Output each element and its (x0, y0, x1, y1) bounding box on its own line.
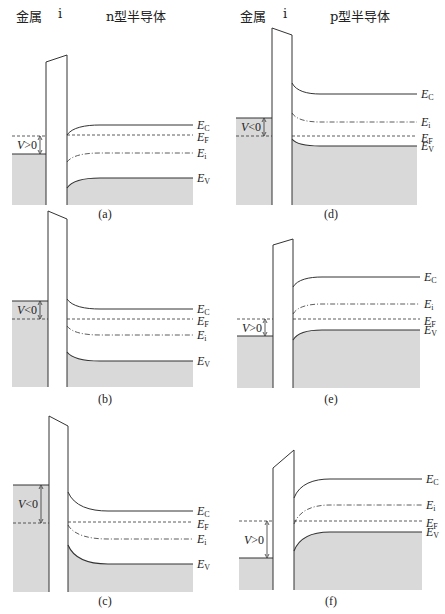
panel-caption: (a) (98, 207, 111, 221)
label-ef: EF (196, 517, 209, 532)
conduction-band-edge (67, 299, 193, 309)
panel-caption: (e) (324, 392, 337, 406)
valence-band-fill (294, 532, 422, 590)
insulator-barrier (48, 211, 67, 387)
voltage-label: V>0 (242, 321, 262, 335)
insulator-barrier (46, 55, 67, 205)
panel-b: V<0ECEFEiEV(b) (12, 211, 210, 406)
valence-band-fill (67, 178, 193, 205)
mis-band-diagrams: V>0ECEFEiEV(a)V<0ECEFEiEV(b)V<0ECEFEiEV(… (0, 0, 445, 614)
intrinsic-level (67, 153, 193, 162)
conduction-band-edge (292, 83, 417, 94)
valence-band-edge (292, 139, 417, 146)
label-ec: EC (423, 270, 437, 285)
panel-a: V>0ECEFEiEV(a) (12, 55, 210, 221)
valence-band-fill (67, 352, 193, 387)
panel-e: V>0ECEFEiEV(e) (237, 239, 437, 406)
label-ei: Ei (425, 498, 436, 513)
voltage-label: V<0 (18, 497, 38, 511)
insulator-barrier (273, 239, 293, 388)
intrinsic-level (68, 525, 193, 539)
conduction-band-edge (67, 125, 193, 135)
label-ei: Ei (420, 115, 431, 130)
insulator-barrier (272, 28, 292, 205)
metal-filled-states (237, 336, 273, 388)
intrinsic-level (67, 326, 193, 335)
valence-band-fill (68, 545, 193, 592)
panel-caption: (b) (98, 392, 112, 406)
panel-f: V>0ECEFEiEV(f) (239, 450, 439, 608)
label-ec: EC (425, 472, 439, 487)
label-ei: Ei (196, 532, 207, 547)
label-ec: EC (420, 87, 434, 102)
label-ev: EV (196, 557, 210, 572)
panel-d: V<0ECEFEiEV(d) (236, 28, 434, 221)
conduction-band-edge (293, 277, 420, 287)
metal-filled-states (12, 154, 46, 205)
panel-caption: (f) (325, 594, 337, 608)
voltage-label: V>0 (17, 138, 37, 152)
metal-filled-states (239, 558, 273, 590)
intrinsic-level (293, 304, 420, 314)
conduction-band-edge (294, 479, 422, 498)
valence-band-edge (67, 352, 193, 361)
label-ev: EV (196, 171, 210, 186)
panel-caption: (c) (98, 594, 111, 608)
label-ei: Ei (196, 328, 207, 343)
conduction-band-edge (68, 492, 193, 511)
intrinsic-level (292, 113, 417, 122)
valence-band-edge (68, 545, 193, 564)
valence-band-fill (293, 330, 420, 388)
panel-c: V<0ECEFEiEV(c) (13, 416, 210, 608)
insulator-barrier (49, 416, 68, 592)
voltage-label: V<0 (17, 303, 37, 317)
label-ei: Ei (196, 146, 207, 161)
label-ei: Ei (423, 297, 434, 312)
label-ev: EV (196, 354, 210, 369)
valence-band-fill (292, 139, 417, 205)
intrinsic-level (294, 505, 422, 524)
panel-caption: (d) (324, 207, 338, 221)
voltage-label: V>0 (244, 533, 264, 547)
voltage-label: V<0 (241, 120, 261, 134)
insulator-barrier (273, 450, 294, 590)
